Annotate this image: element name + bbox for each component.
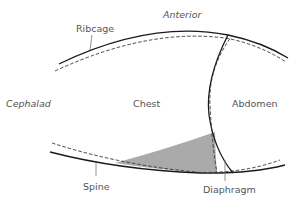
chest-abdomen-diagram: Ribcage Anterior Cephalad Chest Abdomen … <box>0 0 292 201</box>
cephalad-label: Cephalad <box>6 98 52 109</box>
ribcage-leader-line <box>90 35 92 50</box>
abdomen-label: Abdomen <box>232 98 278 109</box>
diaphragm-label: Diaphragm <box>203 184 256 195</box>
ribcage-label: Ribcage <box>76 23 114 34</box>
chest-label: Chest <box>133 98 160 109</box>
spine-label: Spine <box>83 181 110 192</box>
ribcage-wall-solid <box>59 31 288 64</box>
anterior-label: Anterior <box>162 9 202 20</box>
